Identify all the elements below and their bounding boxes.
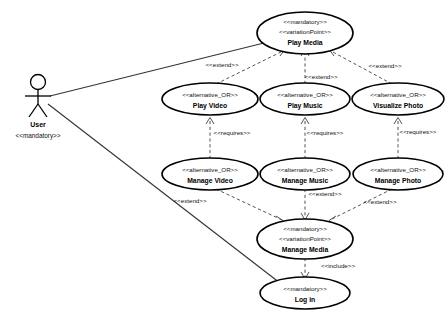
play-music-stereotype: <<alternative_OR>> bbox=[277, 91, 333, 98]
use-case-play-music-shape bbox=[260, 83, 350, 115]
manage-music-name: Manage Music bbox=[282, 177, 329, 185]
label-extend-manage-photo: <<extend>> bbox=[363, 198, 396, 205]
manage-photo-stereotype: <<alternative_OR>> bbox=[370, 166, 426, 173]
log-in-name: Log in bbox=[295, 296, 315, 304]
use-case-manage-music-shape bbox=[260, 158, 350, 190]
label-extend-manage-music: <<extend>> bbox=[308, 190, 341, 197]
use-case-play-video[interactable]: <<alternative_OR>> Play Video bbox=[162, 83, 258, 115]
use-case-manage-video-shape bbox=[162, 158, 258, 190]
actor-leg-left bbox=[29, 104, 38, 117]
use-case-play-music[interactable]: <<alternative_OR>> Play Music bbox=[260, 83, 350, 115]
manage-media-stereotype-2: <<variationPoint>> bbox=[279, 235, 331, 242]
play-video-name: Play Video bbox=[193, 102, 227, 110]
label-include-log-in: <<include>> bbox=[321, 262, 355, 269]
actor-name-label: User bbox=[30, 121, 46, 128]
visualize-photo-name: Visualize Photo bbox=[373, 102, 423, 109]
actor-leg-right bbox=[38, 104, 47, 117]
use-case-manage-media[interactable]: <<mandatory>> <<variationPoint>> Manage … bbox=[257, 219, 353, 259]
label-requires-video: <<requires>> bbox=[214, 129, 251, 136]
use-case-log-in[interactable]: <<mandatory>> Log in bbox=[260, 277, 350, 309]
play-media-name: Play Media bbox=[287, 39, 322, 47]
label-extend-manage-video: <<extend>> bbox=[173, 197, 206, 204]
manage-video-name: Manage Video bbox=[187, 177, 233, 185]
use-case-visualize-photo-shape bbox=[352, 83, 444, 115]
use-case-visualize-photo[interactable]: <<alternative_OR>> Visualize Photo bbox=[352, 83, 444, 115]
manage-music-stereotype: <<alternative_OR>> bbox=[277, 166, 333, 173]
use-case-manage-video[interactable]: <<alternative_OR>> Manage Video bbox=[162, 158, 258, 190]
use-case-manage-music[interactable]: <<alternative_OR>> Manage Music bbox=[260, 158, 350, 190]
use-case-diagram-canvas: User <<mandatory>> <<mandatory>> <<varia… bbox=[0, 0, 448, 314]
actor-stereotype-label: <<mandatory>> bbox=[15, 132, 60, 140]
label-requires-photo: <<requires>> bbox=[400, 128, 437, 135]
label-requires-music: <<requires>> bbox=[307, 129, 344, 136]
play-video-stereotype: <<alternative_OR>> bbox=[182, 91, 238, 98]
log-in-stereotype: <<mandatory>> bbox=[283, 285, 327, 292]
manage-video-stereotype: <<alternative_OR>> bbox=[182, 166, 238, 173]
uml-diagram-svg: User <<mandatory>> <<mandatory>> <<varia… bbox=[0, 0, 448, 314]
visualize-photo-stereotype: <<alternative_OR>> bbox=[370, 91, 426, 98]
play-media-stereotype-1: <<mandatory>> bbox=[283, 18, 327, 25]
use-case-manage-photo[interactable]: <<alternative_OR>> Manage Photo bbox=[353, 158, 443, 190]
actor-head-icon bbox=[31, 75, 46, 90]
dependency-manage-video-to-manage-media bbox=[216, 189, 282, 220]
manage-media-stereotype-1: <<mandatory>> bbox=[283, 225, 327, 232]
label-extend-play-music: <<extend>> bbox=[304, 73, 337, 80]
label-extend-visualize-photo: <<extend>> bbox=[368, 62, 401, 69]
manage-media-name: Manage Media bbox=[282, 246, 329, 254]
use-case-play-video-shape bbox=[162, 83, 258, 115]
use-case-play-media[interactable]: <<mandatory>> <<variationPoint>> Play Me… bbox=[257, 12, 353, 54]
play-media-stereotype-2: <<variationPoint>> bbox=[279, 28, 331, 35]
manage-photo-name: Manage Photo bbox=[375, 177, 421, 185]
use-case-log-in-shape bbox=[260, 277, 350, 309]
use-case-manage-photo-shape bbox=[353, 158, 443, 190]
label-extend-play-video: <<extend>> bbox=[205, 61, 238, 68]
play-music-name: Play Music bbox=[287, 102, 322, 110]
actor-user[interactable]: User <<mandatory>> bbox=[15, 75, 60, 141]
